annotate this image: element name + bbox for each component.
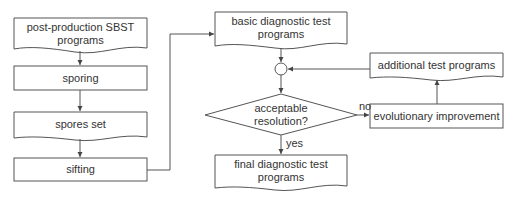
junction-circle <box>275 63 287 75</box>
decision-label: acceptable resolution? <box>231 100 331 130</box>
additional-label: additional test programs <box>370 54 503 76</box>
sporing-label: sporing <box>14 66 147 90</box>
edge-label-yes: yes <box>286 137 303 149</box>
edge-label-no: no <box>359 100 371 112</box>
post-production-label-line2: programs <box>57 34 103 47</box>
evolutionary-label: evolutionary improvement <box>370 104 503 128</box>
decision-label-line1: acceptable <box>254 102 307 115</box>
sifting-label: sifting <box>14 158 147 181</box>
spores-set-label: spores set <box>14 113 147 135</box>
post-production-label: post-production SBST programs <box>14 20 147 48</box>
basic-diagnostic-label-line2: programs <box>258 28 304 41</box>
basic-diagnostic-label: basic diagnostic test programs <box>215 14 347 42</box>
basic-diagnostic-label-line1: basic diagnostic test <box>231 15 330 28</box>
final-diagnostic-label-line1: final diagnostic test <box>234 158 328 171</box>
post-production-label-line1: post-production SBST <box>27 21 135 34</box>
decision-label-line2: resolution? <box>254 115 308 128</box>
final-diagnostic-label-line2: programs <box>258 171 304 184</box>
final-diagnostic-label: final diagnostic test programs <box>215 157 347 185</box>
edge-sifting-to-basic <box>147 34 214 170</box>
